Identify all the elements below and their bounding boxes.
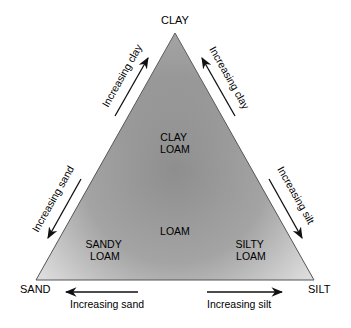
- vertex-label-clay: CLAY: [161, 14, 190, 26]
- label-increasing-silt-right: Increasing silt: [275, 164, 317, 226]
- soil-texture-triangle-diagram: CLAY SAND SILT CLAY LOAM LOAM SANDY LOAM…: [0, 0, 351, 328]
- vertex-label-silt: SILT: [308, 283, 331, 295]
- label-increasing-sand-bottom: Increasing sand: [70, 298, 144, 310]
- texture-triangle-shading: [36, 33, 314, 280]
- label-increasing-silt-bottom: Increasing silt: [207, 298, 271, 310]
- zone-label-silty-loam: SILTY LOAM: [235, 238, 266, 262]
- vertex-label-sand: SAND: [20, 283, 51, 295]
- zone-label-clay-loam: CLAY LOAM: [160, 131, 190, 155]
- zone-label-sandy-loam: SANDY LOAM: [86, 238, 125, 262]
- zone-label-loam: LOAM: [160, 225, 190, 237]
